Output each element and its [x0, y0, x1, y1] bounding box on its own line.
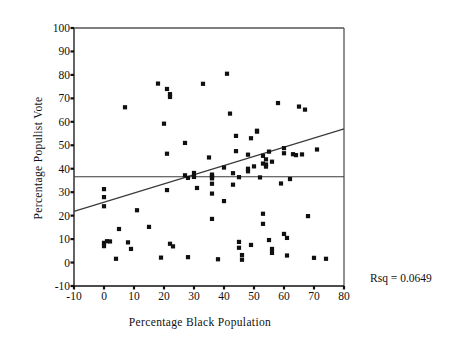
data-point — [222, 165, 226, 169]
data-point — [210, 182, 214, 186]
data-point — [246, 169, 250, 173]
data-point — [324, 257, 328, 261]
data-point — [279, 181, 283, 185]
data-point — [126, 240, 130, 244]
data-point — [102, 204, 106, 208]
data-point — [234, 149, 238, 153]
data-point — [282, 146, 286, 150]
data-point — [231, 183, 235, 187]
data-point — [285, 253, 289, 257]
data-point — [306, 214, 310, 218]
data-point — [162, 122, 166, 126]
x-axis-tick-labels: -1001020304050607080 — [0, 290, 467, 306]
data-point — [165, 87, 169, 91]
data-point — [156, 81, 160, 85]
data-point — [192, 175, 196, 179]
data-point — [252, 164, 256, 168]
data-point — [288, 177, 292, 181]
y-tick-label: 100 — [36, 23, 70, 33]
data-point — [231, 171, 235, 175]
scatter-plot-figure: -100102030405060708090100 -1001020304050… — [0, 0, 467, 344]
data-point — [225, 72, 229, 76]
data-point — [216, 257, 220, 261]
data-point — [183, 141, 187, 145]
data-point — [207, 155, 211, 159]
data-point — [282, 232, 286, 236]
data-point — [297, 104, 301, 108]
data-point — [102, 195, 106, 199]
data-point — [267, 150, 271, 154]
data-point — [264, 165, 268, 169]
data-point — [285, 236, 289, 240]
data-point — [270, 251, 274, 255]
data-point — [123, 105, 127, 109]
data-point — [312, 256, 316, 260]
data-point — [210, 176, 214, 180]
x-tick-label: 80 — [324, 290, 364, 302]
data-point — [159, 256, 163, 260]
data-point — [168, 92, 172, 96]
data-point — [261, 212, 265, 216]
data-point — [246, 153, 250, 157]
data-point — [261, 222, 265, 226]
data-point — [195, 186, 199, 190]
data-point — [228, 112, 232, 116]
data-point — [294, 153, 298, 157]
data-point — [222, 199, 226, 203]
data-point — [234, 134, 238, 138]
data-point — [276, 101, 280, 105]
data-point — [300, 152, 304, 156]
data-point — [201, 82, 205, 86]
data-point — [210, 191, 214, 195]
data-point — [264, 157, 268, 161]
data-point — [237, 240, 241, 244]
data-point — [186, 176, 190, 180]
rsq-annotation: Rsq = 0.0649 — [370, 272, 432, 284]
data-point — [237, 175, 241, 179]
data-point — [282, 151, 286, 155]
data-point — [210, 217, 214, 221]
regression-line — [74, 129, 344, 212]
data-point — [147, 225, 151, 229]
data-point — [102, 244, 106, 248]
data-point — [102, 187, 106, 191]
data-point — [315, 147, 319, 151]
data-point — [186, 255, 190, 259]
data-point-group — [102, 72, 328, 262]
data-point — [267, 238, 271, 242]
data-point — [255, 130, 259, 134]
data-point — [258, 175, 262, 179]
x-axis-title: Percentage Black Population — [0, 316, 400, 328]
data-point — [165, 188, 169, 192]
data-point — [270, 247, 274, 251]
data-point — [240, 253, 244, 257]
data-point — [249, 136, 253, 140]
data-point — [249, 243, 253, 247]
data-point — [171, 244, 175, 248]
data-point — [237, 246, 241, 250]
data-point — [270, 160, 274, 164]
data-point — [108, 239, 112, 243]
data-point — [240, 258, 244, 262]
data-point — [114, 257, 118, 261]
y-axis-title: Percentage Populist Vote — [32, 48, 44, 268]
data-point — [135, 208, 139, 212]
data-point — [303, 108, 307, 112]
data-point — [192, 171, 196, 175]
data-point — [129, 247, 133, 251]
data-point — [165, 152, 169, 156]
data-point — [117, 227, 121, 231]
